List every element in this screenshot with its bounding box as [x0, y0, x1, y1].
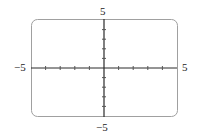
x-max-label: 5 [182, 62, 188, 73]
viewing-window [0, 0, 199, 139]
y-min-label: −5 [96, 122, 108, 133]
y-max-label: 5 [100, 6, 106, 17]
x-min-label: −5 [14, 62, 26, 73]
